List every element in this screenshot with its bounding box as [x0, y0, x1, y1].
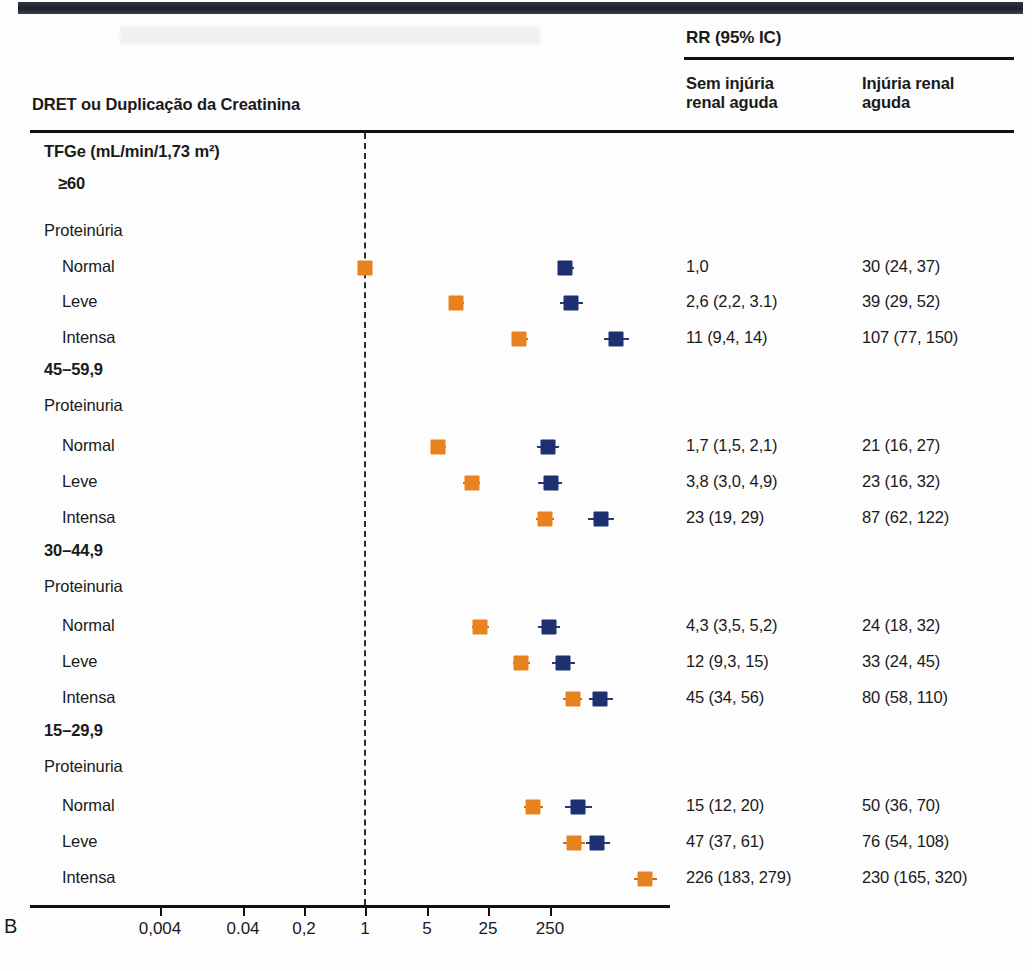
- marker-no-aki: [638, 872, 653, 887]
- marker-no-aki: [567, 836, 582, 851]
- ci-whisker-aki: [552, 662, 575, 664]
- row-label: Intensa: [62, 328, 115, 347]
- x-axis-tick-label: 25: [479, 919, 498, 939]
- value-aki: 30 (24, 37): [862, 257, 940, 276]
- marker-aki: [544, 476, 559, 491]
- value-aki: 39 (29, 52): [862, 292, 940, 311]
- marker-no-aki: [449, 296, 464, 311]
- row-group-label: Proteinuria: [44, 577, 123, 596]
- x-axis-tick-label: 1: [360, 919, 369, 939]
- marker-no-aki: [465, 476, 480, 491]
- row-label: Normal: [62, 796, 115, 815]
- row-group-label: Proteinúria: [44, 221, 123, 240]
- marker-aki: [590, 836, 605, 851]
- column-header-aki-line1: Injúria renal: [862, 74, 1022, 93]
- column-header-aki-line2: aguda: [862, 93, 1022, 112]
- ci-whisker-aki: [538, 482, 562, 484]
- rr-header-title: RR (95% IC): [686, 28, 781, 48]
- ci-whisker-aki: [588, 518, 614, 520]
- value-no-aki: 15 (12, 20): [686, 796, 764, 815]
- ci-whisker-aki: [604, 338, 629, 340]
- scan-artifact-bar: [18, 2, 1023, 14]
- row-group-label: 45–59,9: [44, 360, 103, 379]
- marker-aki: [542, 620, 557, 635]
- table-top-rule: [30, 130, 1014, 133]
- marker-no-aki: [566, 692, 581, 707]
- row-label: Leve: [62, 832, 97, 851]
- ci-whisker-no-aki: [634, 878, 657, 880]
- marker-aki: [558, 261, 573, 276]
- marker-aki: [593, 692, 608, 707]
- x-axis-tick: [243, 905, 245, 916]
- column-header-aki: Injúria renal aguda: [862, 74, 1022, 112]
- column-header-no-aki: Sem injúria renal aguda: [686, 74, 836, 112]
- column-header-no-aki-line1: Sem injúria: [686, 74, 836, 93]
- ci-whisker-no-aki: [432, 446, 446, 448]
- x-axis-tick-label: 0,2: [292, 919, 316, 939]
- rr-header-rule: [684, 57, 1014, 60]
- value-aki: 33 (24, 45): [862, 652, 940, 671]
- marker-no-aki: [358, 261, 373, 276]
- row-group-label: Proteinuria: [44, 396, 123, 415]
- row-label: Normal: [62, 436, 115, 455]
- x-axis-tick: [488, 905, 490, 916]
- value-aki: 50 (36, 70): [862, 796, 940, 815]
- marker-no-aki: [431, 440, 446, 455]
- ci-whisker-no-aki: [512, 338, 528, 340]
- value-no-aki: 3,8 (3,0, 4,9): [686, 472, 777, 491]
- ci-whisker-no-aki: [563, 842, 585, 844]
- marker-aki: [609, 332, 624, 347]
- panel-letter: B: [4, 915, 17, 938]
- marker-no-aki: [473, 620, 488, 635]
- ci-whisker-no-aki: [513, 662, 530, 664]
- value-no-aki: 23 (19, 29): [686, 508, 764, 527]
- row-group-label: Proteinuria: [44, 757, 123, 776]
- ci-whisker-aki: [558, 267, 574, 269]
- value-aki: 24 (18, 32): [862, 616, 940, 635]
- scan-ghost-text: [120, 26, 540, 44]
- marker-aki: [564, 296, 579, 311]
- row-label: Intensa: [62, 688, 115, 707]
- ci-whisker-aki: [537, 446, 559, 448]
- row-group-label: 30–44,9: [44, 541, 103, 560]
- value-no-aki: 2,6 (2,2, 3.1): [686, 292, 777, 311]
- marker-aki: [556, 656, 571, 671]
- value-aki: 230 (165, 320): [862, 868, 967, 887]
- marker-aki: [541, 440, 556, 455]
- forest-plot-figure: RR (95% IC) Sem injúria renal aguda Injú…: [0, 0, 1032, 971]
- row-group-label: 15–29,9: [44, 721, 103, 740]
- row-label: Intensa: [62, 868, 115, 887]
- ci-whisker-aki: [538, 626, 560, 628]
- x-axis-tick: [550, 905, 552, 916]
- value-no-aki: 45 (34, 56): [686, 688, 764, 707]
- x-axis-line: [30, 905, 670, 908]
- marker-no-aki: [514, 656, 529, 671]
- marker-aki: [571, 800, 586, 815]
- marker-no-aki: [526, 800, 541, 815]
- value-aki: 76 (54, 108): [862, 832, 949, 851]
- value-no-aki: 47 (37, 61): [686, 832, 764, 851]
- value-aki: 23 (16, 32): [862, 472, 940, 491]
- ci-whisker-no-aki: [563, 698, 582, 700]
- ci-whisker-no-aki: [472, 626, 489, 628]
- x-axis-tick: [427, 905, 429, 916]
- value-no-aki: 1,0: [686, 257, 709, 276]
- row-label: Leve: [62, 472, 97, 491]
- row-label: Normal: [62, 257, 115, 276]
- x-axis-tick-label: 0.04: [226, 919, 259, 939]
- row-label: Intensa: [62, 508, 115, 527]
- value-aki: 87 (62, 122): [862, 508, 949, 527]
- ci-whisker-aki: [560, 302, 583, 304]
- row-group-label: ≥60: [58, 174, 85, 193]
- outcome-header-title: DRET ou Duplicação da Creatinina: [32, 95, 300, 114]
- marker-no-aki: [538, 512, 553, 527]
- marker-no-aki: [512, 332, 527, 347]
- x-axis-tick-label: 250: [536, 919, 564, 939]
- column-header-no-aki-line2: renal aguda: [686, 93, 836, 112]
- value-aki: 21 (16, 27): [862, 436, 940, 455]
- ci-whisker-no-aki: [536, 518, 554, 520]
- value-no-aki: 4,3 (3,5, 5,2): [686, 616, 777, 635]
- ci-whisker-aki: [565, 806, 592, 808]
- x-axis-tick-label: 0,004: [139, 919, 182, 939]
- value-aki: 80 (58, 110): [862, 688, 948, 707]
